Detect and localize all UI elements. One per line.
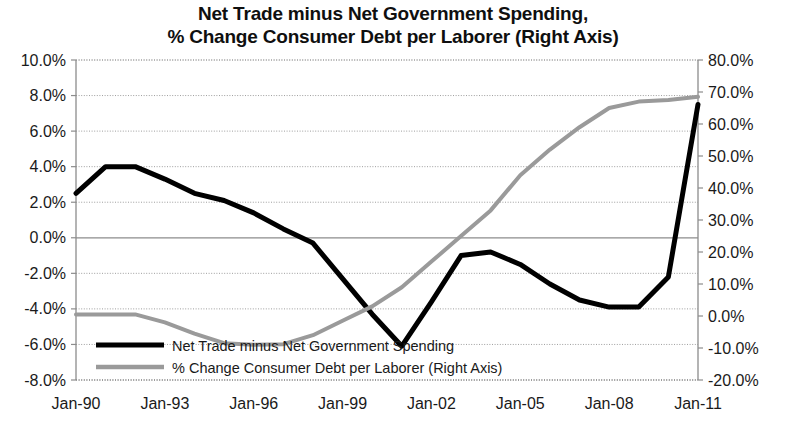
right-axis-tick-labels: 80.0%70.0%60.0%50.0%40.0%30.0%20.0%10.0%… xyxy=(698,52,759,389)
left-axis-tick-label: -6.0% xyxy=(24,336,66,353)
legend-label: Net Trade minus Net Government Spending xyxy=(172,338,454,354)
x-axis-tick-label: Jan-93 xyxy=(140,395,189,412)
left-axis-tick-label: -2.0% xyxy=(24,265,66,282)
right-axis-tick-label: 20.0% xyxy=(708,244,753,261)
x-axis-tick-label: Jan-02 xyxy=(407,395,456,412)
x-axis-tick-labels: Jan-90Jan-93Jan-96Jan-99Jan-02Jan-05Jan-… xyxy=(52,395,722,412)
left-axis-tick-label: 0.0% xyxy=(30,229,66,246)
right-axis-tick-label: 0.0% xyxy=(708,308,744,325)
x-axis-tick-label: Jan-90 xyxy=(52,395,101,412)
left-axis-tick-label: -8.0% xyxy=(24,372,66,389)
left-axis-tick-label: 10.0% xyxy=(21,52,66,69)
right-axis-tick-label: 50.0% xyxy=(708,148,753,165)
right-axis-tick-label: 60.0% xyxy=(708,116,753,133)
series-line-net-trade xyxy=(76,104,698,346)
left-axis-tick-labels: 10.0%8.0%6.0%4.0%2.0%0.0%-2.0%-4.0%-6.0%… xyxy=(21,52,76,389)
chart-plot: 10.0%8.0%6.0%4.0%2.0%0.0%-2.0%-4.0%-6.0%… xyxy=(0,0,786,423)
x-axis-tick-label: Jan-08 xyxy=(585,395,634,412)
right-axis-tick-label: -10.0% xyxy=(708,340,759,357)
left-axis-tick-label: -4.0% xyxy=(24,300,66,317)
left-axis-tick-label: 6.0% xyxy=(30,123,66,140)
chart-legend: Net Trade minus Net Government Spending%… xyxy=(96,338,502,376)
right-axis-tick-label: 80.0% xyxy=(708,52,753,69)
right-axis-tick-label: 30.0% xyxy=(708,212,753,229)
left-axis-tick-label: 8.0% xyxy=(30,87,66,104)
left-axis-tick-label: 2.0% xyxy=(30,194,66,211)
x-axis-tick-label: Jan-05 xyxy=(496,395,545,412)
x-axis-tick-label: Jan-96 xyxy=(229,395,278,412)
legend-label: % Change Consumer Debt per Laborer (Righ… xyxy=(172,360,502,376)
right-axis-tick-label: 10.0% xyxy=(708,276,753,293)
right-axis-tick-label: 70.0% xyxy=(708,84,753,101)
right-axis-tick-label: 40.0% xyxy=(708,180,753,197)
x-axis-tick-label: Jan-99 xyxy=(318,395,367,412)
chart-container: Net Trade minus Net Government Spending,… xyxy=(0,0,786,423)
x-axis-tick-label: Jan-11 xyxy=(674,395,722,412)
left-axis-tick-label: 4.0% xyxy=(30,158,66,175)
right-axis-tick-label: -20.0% xyxy=(708,372,759,389)
